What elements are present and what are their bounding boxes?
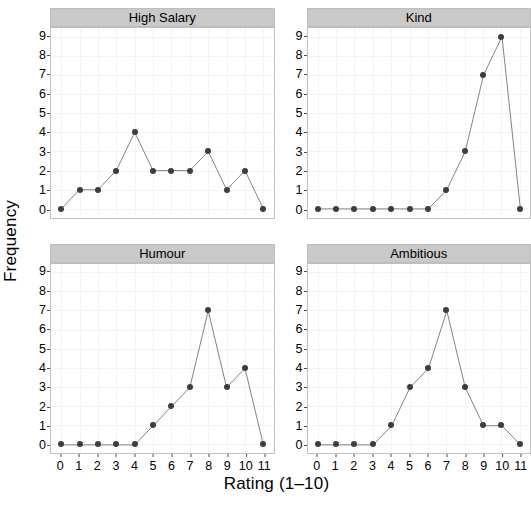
x-tick-label: 4: [131, 459, 138, 473]
data-point: [498, 422, 504, 428]
y-tick-label: 5: [39, 106, 46, 120]
data-point: [462, 384, 468, 390]
y-tick-label: 2: [39, 400, 46, 414]
y-tick-label: 4: [39, 361, 46, 375]
data-point: [260, 441, 266, 447]
x-tick-label: 3: [369, 459, 376, 473]
y-tick-label: 7: [296, 67, 303, 81]
x-tick-label: 6: [425, 459, 432, 473]
y-tick-label: 5: [39, 342, 46, 356]
data-point: [242, 365, 248, 371]
data-point: [150, 168, 156, 174]
x-axis: 01234567891011: [50, 219, 275, 239]
series-line: [51, 264, 274, 454]
y-tick-label: 6: [296, 322, 303, 336]
data-point: [150, 422, 156, 428]
x-axis: 01234567891011: [307, 454, 531, 474]
y-tick-label: 7: [296, 303, 303, 317]
data-point: [77, 441, 83, 447]
x-tick-label: 10: [495, 459, 509, 473]
y-tick-label: 4: [39, 125, 46, 139]
y-tick-label: 9: [39, 264, 46, 278]
y-tick-label: 2: [296, 164, 303, 178]
data-point: [443, 187, 449, 193]
data-point: [462, 148, 468, 154]
series-line: [308, 28, 531, 218]
data-point: [168, 168, 174, 174]
y-tick-label: 9: [39, 29, 46, 43]
data-point: [315, 206, 321, 212]
y-tick-label: 7: [39, 67, 46, 81]
panel-ambitious: Ambitious012345678901234567891011: [279, 244, 531, 475]
y-tick-label: 8: [296, 284, 303, 298]
x-tick-label: 7: [187, 459, 194, 473]
data-point: [333, 441, 339, 447]
data-point: [388, 422, 394, 428]
x-tick-label: 9: [480, 459, 487, 473]
data-point: [205, 307, 211, 313]
y-tick-label: 9: [296, 29, 303, 43]
data-point: [498, 34, 504, 40]
data-point: [187, 168, 193, 174]
data-point: [370, 441, 376, 447]
data-point: [351, 206, 357, 212]
panel-humour: Humour012345678901234567891011: [22, 244, 275, 475]
x-tick-label: 11: [258, 459, 271, 473]
data-point: [425, 206, 431, 212]
data-point: [370, 206, 376, 212]
x-tick-label: 5: [149, 459, 156, 473]
y-tick-label: 1: [39, 419, 46, 433]
x-tick-label: 8: [205, 459, 212, 473]
y-tick-label: 3: [39, 380, 46, 394]
y-axis-title: Frequency: [0, 0, 22, 482]
y-tick-label: 3: [39, 145, 46, 159]
y-axis: 0123456789: [22, 27, 50, 219]
y-tick-label: 2: [39, 164, 46, 178]
x-tick-label: 7: [443, 459, 450, 473]
data-point: [443, 307, 449, 313]
y-tick-label: 0: [296, 438, 303, 452]
y-tick-label: 8: [39, 284, 46, 298]
y-tick-label: 1: [296, 183, 303, 197]
data-point: [425, 365, 431, 371]
plot-area: [50, 27, 275, 219]
y-tick-label: 4: [296, 125, 303, 139]
x-tick-label: 8: [462, 459, 469, 473]
y-tick-label: 5: [296, 106, 303, 120]
y-tick-label: 7: [39, 303, 46, 317]
x-tick-label: 5: [406, 459, 413, 473]
data-point: [95, 441, 101, 447]
figure-multipanel-line-chart: Frequency High Salary0123456789012345678…: [0, 0, 531, 510]
x-tick-label: 6: [168, 459, 175, 473]
y-tick-label: 8: [39, 48, 46, 62]
x-axis: 01234567891011: [50, 454, 275, 474]
x-axis: 01234567891011: [307, 219, 531, 239]
data-point: [58, 441, 64, 447]
y-tick-label: 5: [296, 342, 303, 356]
data-point: [351, 441, 357, 447]
data-point: [224, 187, 230, 193]
x-tick-label: 4: [387, 459, 394, 473]
data-point: [480, 72, 486, 78]
data-point: [187, 384, 193, 390]
data-point: [113, 441, 119, 447]
x-tick-label: 1: [332, 459, 339, 473]
x-tick-label: 0: [313, 459, 320, 473]
data-point: [407, 206, 413, 212]
y-tick-label: 0: [296, 203, 303, 217]
panel-grid: High Salary012345678901234567891011Kind0…: [22, 8, 531, 474]
x-tick-label: 1: [75, 459, 82, 473]
series-line: [308, 264, 531, 454]
y-axis: 0123456789: [22, 263, 50, 455]
y-tick-label: 4: [296, 361, 303, 375]
x-axis-title: Rating (1–10): [22, 474, 531, 494]
x-tick-label: 2: [94, 459, 101, 473]
y-tick-label: 8: [296, 48, 303, 62]
x-tick-label: 9: [224, 459, 231, 473]
panel-high-salary: High Salary012345678901234567891011: [22, 8, 275, 239]
x-tick-label: 2: [350, 459, 357, 473]
x-tick-label: 10: [239, 459, 253, 473]
y-tick-label: 1: [39, 183, 46, 197]
data-point: [315, 441, 321, 447]
data-point: [95, 187, 101, 193]
